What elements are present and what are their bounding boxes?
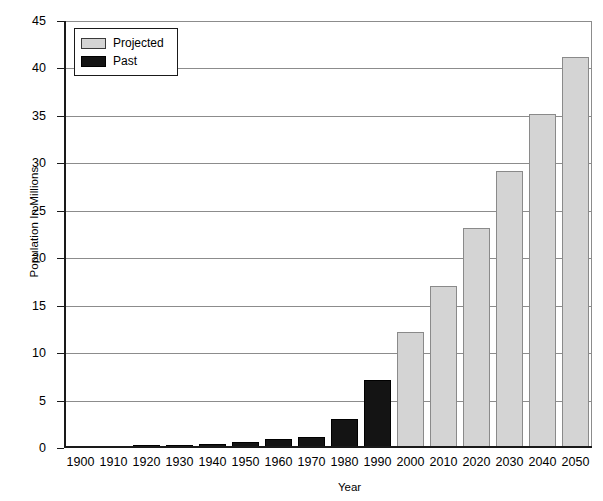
x-tick-label-2000: 2000	[394, 456, 427, 469]
y-tick-label-30: 30	[0, 157, 46, 169]
legend-label-past: Past	[113, 55, 137, 67]
y-tick-label-0: 0	[0, 442, 46, 454]
legend-item-projected: Projected	[81, 34, 171, 52]
population-bar-chart: Population In Millions 05101520253035404…	[0, 0, 603, 501]
y-tick-0	[57, 448, 64, 449]
x-tick-label-1990: 1990	[361, 456, 394, 469]
x-tick-label-2050: 2050	[559, 456, 592, 469]
top-edge-artifact	[0, 0, 603, 6]
y-tick-20	[57, 258, 64, 259]
plot-area	[64, 21, 592, 448]
y-tick-10	[57, 353, 64, 354]
past-swatch-icon	[81, 56, 106, 67]
y-tick-5	[57, 401, 64, 402]
x-tick-label-1950: 1950	[229, 456, 262, 469]
x-tick-label-1940: 1940	[196, 456, 229, 469]
y-tick-label-10: 10	[0, 347, 46, 359]
y-tick-label-5: 5	[0, 395, 46, 407]
x-tick-label-1910: 1910	[97, 456, 130, 469]
x-tick-label-1980: 1980	[328, 456, 361, 469]
y-tick-label-35: 35	[0, 110, 46, 122]
x-tick-label-1930: 1930	[163, 456, 196, 469]
legend-label-projected: Projected	[113, 37, 164, 49]
y-tick-label-25: 25	[0, 205, 46, 217]
x-axis-title-text: Year	[338, 481, 361, 493]
y-tick-25	[57, 211, 64, 212]
legend-item-past: Past	[81, 52, 171, 70]
x-tick-label-2040: 2040	[526, 456, 559, 469]
x-tick-label-1970: 1970	[295, 456, 328, 469]
plot-frame	[64, 21, 592, 448]
x-axis-title: Year	[0, 481, 603, 493]
x-tick-label-2010: 2010	[427, 456, 460, 469]
x-tick-label-1920: 1920	[130, 456, 163, 469]
y-tick-label-15: 15	[0, 300, 46, 312]
y-tick-30	[57, 163, 64, 164]
y-tick-40	[57, 68, 64, 69]
chart-legend: Projected Past	[74, 28, 178, 76]
y-tick-label-40: 40	[0, 62, 46, 74]
x-tick-label-2020: 2020	[460, 456, 493, 469]
x-tick-label-2030: 2030	[493, 456, 526, 469]
projected-swatch-icon	[81, 38, 106, 49]
y-tick-35	[57, 116, 64, 117]
y-tick-45	[57, 21, 64, 22]
x-tick-label-1960: 1960	[262, 456, 295, 469]
y-tick-15	[57, 306, 64, 307]
x-tick-label-1900: 1900	[64, 456, 97, 469]
y-tick-label-45: 45	[0, 15, 46, 27]
y-tick-label-20: 20	[0, 252, 46, 264]
